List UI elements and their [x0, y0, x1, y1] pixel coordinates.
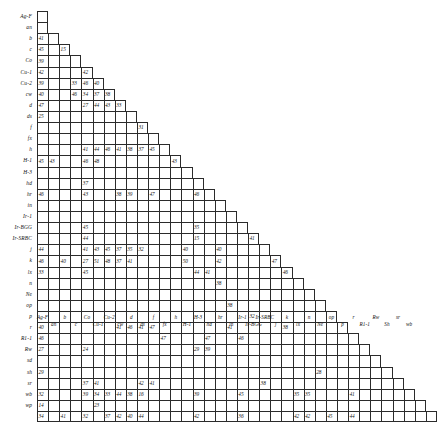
matrix-cell: [70, 55, 81, 66]
column-label: f: [153, 314, 155, 320]
column-label: hd: [207, 321, 212, 327]
cell-value: 44: [94, 146, 99, 152]
matrix-cell: [37, 167, 48, 178]
matrix-cell: [59, 355, 70, 366]
matrix-cell: [237, 289, 248, 300]
matrix-cell: [115, 289, 126, 300]
matrix-cell: 46: [237, 333, 248, 344]
matrix-cell: 36: [237, 411, 248, 422]
row-label: h: [0, 144, 34, 155]
column-label: wb: [406, 321, 412, 327]
matrix-cell: [137, 255, 148, 266]
matrix-row: 31: [37, 122, 437, 133]
matrix-cell: [237, 367, 248, 378]
row-label: wb: [0, 389, 34, 400]
matrix-cell: 47: [204, 333, 215, 344]
matrix-cell: [337, 400, 348, 411]
matrix-cell: [248, 411, 259, 422]
matrix-cell: [215, 355, 226, 366]
matrix-cell: [304, 333, 315, 344]
matrix-cell: [104, 267, 115, 278]
matrix-cell: [359, 389, 370, 400]
matrix-cell: [81, 400, 92, 411]
cell-value: 41: [61, 413, 66, 419]
matrix-cell: [59, 233, 70, 244]
matrix-cell: 47: [159, 333, 170, 344]
matrix-cell: 27: [81, 255, 92, 266]
matrix-cell: [281, 411, 292, 422]
cell-value: 39: [38, 58, 43, 64]
matrix-cell: 44: [93, 144, 104, 155]
matrix-cell: [315, 333, 326, 344]
matrix-cell: [226, 278, 237, 289]
matrix-cell: [170, 167, 181, 178]
matrix-cell: [48, 178, 59, 189]
matrix-cell: [48, 289, 59, 300]
matrix-cell: [59, 222, 70, 233]
matrix-cell: 23: [93, 400, 104, 411]
matrix-cell: 45: [81, 222, 92, 233]
matrix-cell: [70, 100, 81, 111]
matrix-cell: [293, 278, 304, 289]
matrix-cell: [59, 178, 70, 189]
matrix-cell: [70, 267, 81, 278]
matrix-cell: [93, 200, 104, 211]
cell-value: 44: [38, 246, 43, 252]
column-label: H-3: [194, 314, 202, 320]
matrix-cell: [48, 111, 59, 122]
matrix-cell: [59, 78, 70, 89]
matrix-cell: 44: [348, 411, 359, 422]
row-label: hr: [0, 189, 34, 200]
row-label: Ir-1: [0, 211, 34, 222]
matrix-cell: [159, 167, 170, 178]
matrix-cell: [159, 255, 170, 266]
matrix-cell: [259, 355, 270, 366]
matrix-cell: 45: [37, 44, 48, 55]
matrix-cell: [126, 367, 137, 378]
matrix-cell: [137, 189, 148, 200]
matrix-row: 4046343738: [37, 89, 437, 100]
row-label: lx: [0, 267, 34, 278]
matrix-cell: [48, 300, 59, 311]
matrix-cell: [326, 333, 337, 344]
matrix-cell: [126, 278, 137, 289]
matrix-cell: [259, 344, 270, 355]
matrix-cell: [226, 244, 237, 255]
matrix-cell: 38: [115, 189, 126, 200]
matrix-cell: [348, 367, 359, 378]
matrix-cell: 42: [37, 67, 48, 78]
cell-value: 38: [127, 146, 132, 152]
cell-value: 44: [116, 391, 121, 397]
matrix-cell: [59, 333, 70, 344]
matrix-cell: [48, 278, 59, 289]
matrix-cell: 38: [126, 144, 137, 155]
matrix-cell: [237, 233, 248, 244]
matrix-row: 25: [37, 111, 437, 122]
matrix-cell: [393, 378, 404, 389]
cell-value: 43: [172, 158, 177, 164]
matrix-cell: [148, 244, 159, 255]
matrix-cell: [304, 355, 315, 366]
matrix-cell: [381, 367, 392, 378]
matrix-cell: [70, 289, 81, 300]
matrix-cell: [59, 344, 70, 355]
matrix-cell: [148, 233, 159, 244]
matrix-cell: [70, 400, 81, 411]
matrix-cell: [59, 122, 70, 133]
matrix-cell: [115, 167, 126, 178]
matrix-cell: 51: [93, 255, 104, 266]
matrix-cell: [93, 222, 104, 233]
matrix-cell: [104, 111, 115, 122]
matrix-cell: 32: [81, 411, 92, 422]
matrix-cell: [48, 55, 59, 66]
row-label: Ne: [0, 289, 34, 300]
matrix-cell: 38: [126, 389, 137, 400]
matrix-cell: [193, 300, 204, 311]
matrix-cell: [48, 222, 59, 233]
matrix-cell: [70, 178, 81, 189]
column-label: Co: [84, 314, 90, 320]
matrix-cell: [404, 411, 415, 422]
row-label: wp: [0, 400, 34, 411]
matrix-cell: [37, 200, 48, 211]
cell-value: 15: [194, 235, 199, 241]
